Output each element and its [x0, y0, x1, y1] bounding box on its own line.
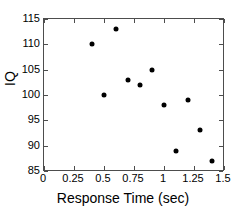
- y-axis-tick-label: 85: [28, 164, 40, 176]
- x-axis-tick: [134, 166, 135, 170]
- y-axis-tick: [219, 44, 223, 45]
- plot-area: [43, 18, 224, 171]
- y-axis-tick: [44, 19, 48, 20]
- y-axis-tick: [219, 19, 223, 20]
- y-axis-title: IQ: [2, 71, 18, 86]
- x-axis-tick-label: 0.75: [122, 172, 143, 184]
- data-point: [126, 77, 131, 82]
- y-axis-tick: [44, 146, 48, 147]
- data-point: [162, 103, 167, 108]
- x-axis-tick-label: 0.5: [95, 172, 110, 184]
- x-axis-tick-label: 0.25: [62, 172, 83, 184]
- data-point: [186, 98, 191, 103]
- y-axis-tick-label: 105: [22, 63, 40, 75]
- data-point: [90, 42, 95, 47]
- y-axis-tick: [44, 44, 48, 45]
- y-axis-tick-label: 90: [28, 139, 40, 151]
- x-axis-tick: [74, 166, 75, 170]
- x-axis-tick: [104, 19, 105, 23]
- x-axis-tick: [164, 19, 165, 23]
- x-axis-tick: [164, 166, 165, 170]
- x-axis-tick: [134, 19, 135, 23]
- x-axis-tick: [194, 19, 195, 23]
- data-point: [210, 158, 215, 163]
- data-point: [102, 93, 107, 98]
- y-axis-tick-label: 95: [28, 113, 40, 125]
- x-axis-tick-label: 1: [160, 172, 166, 184]
- x-axis-tick: [74, 19, 75, 23]
- x-axis-title: Response Time (sec): [0, 190, 246, 206]
- y-axis-tick-label: 110: [22, 37, 40, 49]
- y-axis-tick: [219, 146, 223, 147]
- x-axis-tick: [224, 19, 225, 23]
- x-axis-tick-label: 0: [40, 172, 46, 184]
- data-point: [114, 27, 119, 32]
- data-point: [198, 128, 203, 133]
- x-axis-tick: [44, 166, 45, 170]
- x-axis-tick: [194, 166, 195, 170]
- y-axis-tick-label: 115: [22, 12, 40, 24]
- x-axis-tick-label: 1.5: [215, 172, 230, 184]
- y-axis-tick: [219, 95, 223, 96]
- y-axis-tick: [44, 120, 48, 121]
- y-axis-tick: [44, 95, 48, 96]
- y-axis-tick: [219, 120, 223, 121]
- x-axis-tick-label: 1.25: [182, 172, 203, 184]
- x-axis-tick: [224, 166, 225, 170]
- scatter-plot-figure: Response Time (sec) IQ 00.250.50.7511.25…: [0, 0, 246, 218]
- data-point: [150, 67, 155, 72]
- y-axis-tick: [219, 70, 223, 71]
- data-point: [138, 82, 143, 87]
- y-axis-tick-label: 100: [22, 88, 40, 100]
- x-axis-tick: [104, 166, 105, 170]
- y-axis-tick: [44, 70, 48, 71]
- data-point: [174, 148, 179, 153]
